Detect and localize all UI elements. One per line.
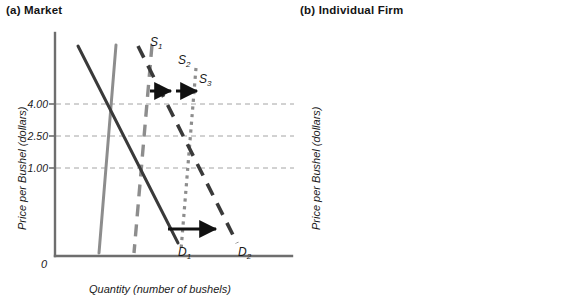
panel-individual-firm: (b) Individual Firm Price per Bushel (do… — [294, 0, 588, 305]
curve-s2 — [134, 45, 152, 253]
panel-b-title: (b) Individual Firm — [300, 4, 403, 16]
panel-a-gridlines — [56, 104, 294, 168]
panel-a-axes — [55, 33, 292, 256]
curve-s3 — [181, 68, 196, 250]
curve-s1 — [99, 45, 116, 253]
figure-root: (a) Market Price per Bushel (dollars) Qu… — [0, 0, 588, 305]
curve-label-s3: S3 — [199, 72, 211, 88]
curve-label-s1: S1 — [150, 35, 162, 51]
panel-b-y-axis-label: Price per Bushel (dollars) — [310, 107, 322, 231]
curve-d2 — [138, 46, 237, 243]
curve-label-d1: D1 — [178, 245, 191, 261]
panel-market: (a) Market Price per Bushel (dollars) Qu… — [0, 0, 294, 305]
curve-d1 — [78, 46, 178, 243]
curve-label-s2: S2 — [178, 53, 190, 69]
curve-label-d2: D2 — [238, 245, 251, 261]
